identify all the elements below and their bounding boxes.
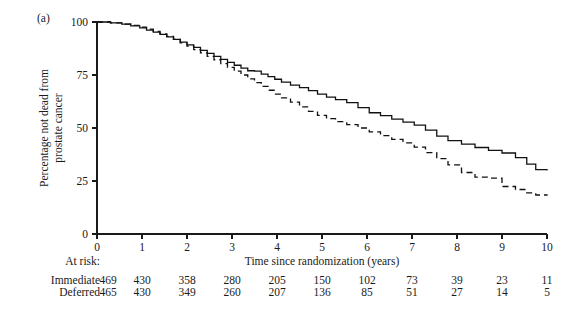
at-risk-header: At risk: — [65, 255, 100, 267]
at-risk-count: 150 — [313, 274, 331, 286]
x-tick-label-1: 1 — [139, 241, 145, 253]
at-risk-count: 430 — [133, 274, 151, 286]
at-risk-count: 11 — [541, 274, 552, 286]
x-tick-label-9: 9 — [499, 241, 505, 253]
x-tick-label-3: 3 — [229, 241, 235, 253]
at-risk-count: 23 — [496, 274, 508, 286]
at-risk-count: 349 — [178, 286, 196, 298]
y-tick-label-0: 0 — [82, 228, 88, 240]
x-tick-label-2: 2 — [184, 241, 190, 253]
at-risk-count: 260 — [223, 286, 241, 298]
at-risk-count: 39 — [451, 274, 463, 286]
y-tick-label-25: 25 — [77, 175, 89, 187]
x-tick-label-10: 10 — [541, 241, 553, 253]
y-axis-title: Percentage not dead from prostate cancer — [38, 69, 65, 187]
at-risk-count: 136 — [313, 286, 331, 298]
at-risk-count: 207 — [268, 286, 286, 298]
at-risk-count: 358 — [178, 274, 196, 286]
x-tick-label-7: 7 — [409, 241, 415, 253]
at-risk-count: 73 — [406, 274, 418, 286]
at-risk-count: 205 — [268, 274, 286, 286]
x-tick-label-8: 8 — [454, 241, 460, 253]
curve-immediate — [97, 22, 547, 170]
curve-deferred — [97, 22, 547, 196]
at-risk-count: 469 — [99, 274, 117, 286]
at-risk-row-label: Deferred — [59, 286, 100, 298]
x-axis-title: Time since randomization (years) — [245, 255, 400, 268]
x-tick-label-6: 6 — [364, 241, 370, 253]
y-axis-ticks: 0255075100 — [71, 16, 97, 240]
at-risk-count: 51 — [406, 286, 418, 298]
x-axis-ticks: 012345678910 — [94, 234, 553, 253]
y-axis-title-line1: Percentage not dead from — [38, 69, 51, 187]
y-axis-title-line2: prostate cancer — [52, 93, 65, 162]
x-tick-label-0: 0 — [94, 241, 100, 253]
x-tick-label-4: 4 — [274, 241, 280, 253]
at-risk-row-label: Immediate — [51, 274, 100, 286]
at-risk-count: 27 — [451, 286, 463, 298]
at-risk-count: 85 — [361, 286, 373, 298]
at-risk-count: 14 — [496, 286, 508, 298]
figure-panel-a: (a) Percentage not dead from prostate ca… — [0, 0, 568, 311]
y-tick-label-50: 50 — [77, 122, 89, 134]
y-tick-label-75: 75 — [77, 69, 89, 81]
at-risk-table: Immediate46943035828020515010273392311De… — [51, 274, 553, 298]
y-tick-label-100: 100 — [71, 16, 89, 28]
at-risk-count: 102 — [358, 274, 376, 286]
at-risk-count: 430 — [133, 286, 151, 298]
x-tick-label-5: 5 — [319, 241, 325, 253]
panel-label: (a) — [37, 12, 50, 25]
survival-plot: (a) Percentage not dead from prostate ca… — [0, 0, 568, 311]
at-risk-count: 5 — [544, 286, 550, 298]
at-risk-count: 280 — [223, 274, 241, 286]
at-risk-count: 465 — [99, 286, 117, 298]
